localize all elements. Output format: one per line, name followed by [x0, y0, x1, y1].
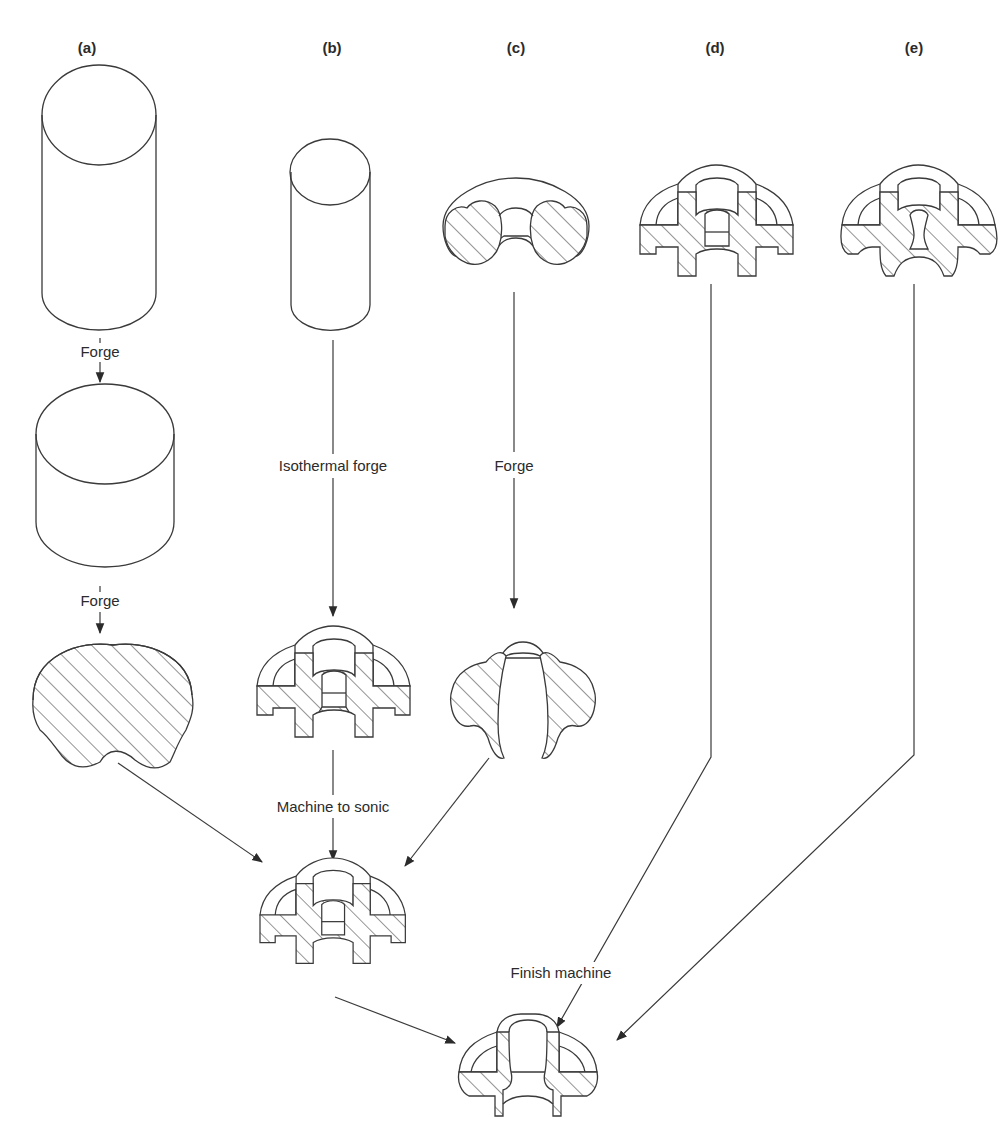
column-a-billet	[42, 65, 156, 330]
panel-label-d: (d)	[705, 39, 724, 56]
column-b-isothermal-forged-shape	[257, 626, 410, 737]
column-c-forged-shape	[451, 642, 596, 758]
final-part-shape	[458, 1014, 597, 1116]
step-label-a-forge-2: Forge	[80, 592, 119, 609]
step-label-machine-to-sonic: Machine to sonic	[277, 798, 390, 815]
column-a-upset-cylinder	[36, 384, 174, 567]
forging-process-diagram: (a) (b) (c) (d) (e) Forge Forge Isotherm…	[0, 0, 1007, 1125]
step-label-a-forge-1: Forge	[80, 343, 119, 360]
machined-to-sonic-shape	[260, 858, 405, 963]
step-label-finish-machine: Finish machine	[511, 964, 612, 981]
arrow-c-to-machined	[405, 758, 489, 866]
column-b-billet	[290, 139, 370, 330]
step-label-b-isothermal-forge: Isothermal forge	[279, 457, 387, 474]
arrow-d-finish-machine	[557, 284, 711, 1027]
step-label-c-forge: Forge	[494, 457, 533, 474]
column-a-forged-shape	[33, 644, 193, 768]
column-e-shape	[841, 165, 997, 276]
panel-label-a: (a)	[78, 39, 96, 56]
panel-label-c: (c)	[507, 39, 525, 56]
panel-label-e: (e)	[905, 39, 923, 56]
arrow-e-finish-machine	[617, 284, 914, 1040]
panel-label-b: (b)	[322, 39, 341, 56]
column-d-shape	[640, 165, 793, 276]
arrow-machined-to-final	[335, 997, 455, 1043]
column-c-preform	[443, 178, 589, 264]
arrow-a-to-machined	[118, 763, 262, 862]
